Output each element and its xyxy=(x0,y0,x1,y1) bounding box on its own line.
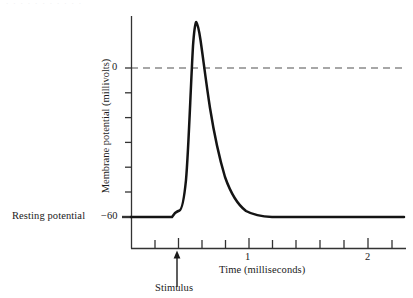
resting-potential-label: Resting potential xyxy=(12,211,85,222)
stimulus-label: Stimulus xyxy=(155,283,193,294)
action-potential-plot xyxy=(0,0,413,298)
x-tick-label-2: 2 xyxy=(365,252,370,263)
action-potential-curve xyxy=(131,22,404,217)
x-axis-title: Time (milliseconds) xyxy=(219,265,305,276)
y-axis-ticks xyxy=(122,68,132,217)
y-axis-title-text: Membrane potential (millivolts) xyxy=(100,59,111,194)
figure-root: · · · · · · · · · · · xyxy=(0,0,413,298)
y-tick-label-0: 0 xyxy=(112,62,117,73)
y-tick-label-minus-60: −60 xyxy=(101,211,118,222)
x-axis-ticks xyxy=(132,238,393,249)
y-axis-title: Membrane potential (millivolts) xyxy=(96,28,114,224)
x-tick-label-1: 1 xyxy=(245,252,250,263)
